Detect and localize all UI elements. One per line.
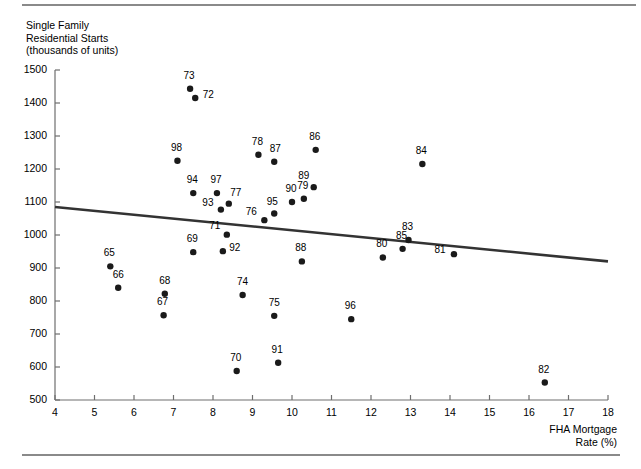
x-tick-label: 6 bbox=[122, 406, 146, 418]
data-point-label: 91 bbox=[267, 344, 287, 355]
data-point bbox=[187, 86, 193, 92]
data-point bbox=[348, 316, 354, 322]
data-point-label: 65 bbox=[99, 247, 119, 258]
data-point bbox=[399, 246, 405, 252]
data-point bbox=[234, 368, 240, 374]
y-tick-label: 700 bbox=[13, 327, 47, 339]
data-point bbox=[301, 196, 307, 202]
data-point-label: 98 bbox=[166, 142, 186, 153]
data-points-group bbox=[107, 86, 548, 386]
y-tick-label: 1300 bbox=[13, 129, 47, 141]
data-point bbox=[542, 379, 548, 385]
y-tick-label: 500 bbox=[13, 393, 47, 405]
data-point bbox=[261, 217, 267, 223]
data-point-label: 74 bbox=[233, 276, 253, 287]
x-tick-label: 11 bbox=[320, 406, 344, 418]
x-tick-label: 17 bbox=[557, 406, 581, 418]
data-point-label: 77 bbox=[226, 187, 246, 198]
data-point bbox=[419, 161, 425, 167]
data-point bbox=[271, 313, 277, 319]
figure-container: 500600700800900100011001200130014001500 … bbox=[0, 0, 641, 469]
data-point bbox=[214, 190, 220, 196]
data-point-label: 88 bbox=[291, 242, 311, 253]
x-tick-label: 4 bbox=[43, 406, 67, 418]
data-point bbox=[160, 312, 166, 318]
data-point bbox=[190, 190, 196, 196]
data-point-label: 84 bbox=[411, 145, 431, 156]
data-point bbox=[174, 158, 180, 164]
x-tick-label: 5 bbox=[83, 406, 107, 418]
y-tick-label: 1500 bbox=[13, 63, 47, 75]
x-tick-label: 13 bbox=[399, 406, 423, 418]
data-point-label: 80 bbox=[372, 238, 392, 249]
data-point bbox=[271, 210, 277, 216]
data-point-label: 94 bbox=[182, 174, 202, 185]
data-point bbox=[224, 231, 230, 237]
data-point-label: 86 bbox=[305, 131, 325, 142]
data-point-label: 71 bbox=[205, 220, 225, 231]
data-point-label: 66 bbox=[108, 269, 128, 280]
data-point-label: 72 bbox=[198, 89, 218, 100]
x-tick-label: 14 bbox=[438, 406, 462, 418]
data-point-label: 92 bbox=[225, 242, 245, 253]
data-point-label: 70 bbox=[226, 352, 246, 363]
x-tick-label: 10 bbox=[280, 406, 304, 418]
trendline-group bbox=[55, 207, 608, 261]
data-point bbox=[115, 285, 121, 291]
data-point-label: 96 bbox=[340, 300, 360, 311]
data-point bbox=[313, 147, 319, 153]
data-point-label: 90 bbox=[281, 183, 301, 194]
y-tick-label: 1100 bbox=[13, 195, 47, 207]
data-point-label: 87 bbox=[265, 143, 285, 154]
data-point-label: 73 bbox=[179, 70, 199, 81]
data-point bbox=[239, 292, 245, 298]
y-tick-label: 600 bbox=[13, 360, 47, 372]
data-point bbox=[190, 249, 196, 255]
x-tick-label: 15 bbox=[478, 406, 502, 418]
x-tick-label: 9 bbox=[241, 406, 265, 418]
data-point bbox=[255, 152, 261, 158]
data-point bbox=[451, 251, 457, 257]
y-tick-label: 900 bbox=[13, 261, 47, 273]
data-point-label: 68 bbox=[155, 275, 175, 286]
x-axis-title: FHA Mortgage Rate (%) bbox=[487, 423, 617, 448]
x-tick-label: 8 bbox=[201, 406, 225, 418]
x-tick-label: 12 bbox=[359, 406, 383, 418]
y-tick-label: 1200 bbox=[13, 162, 47, 174]
x-tick-label: 7 bbox=[162, 406, 186, 418]
data-point-label: 85 bbox=[392, 230, 412, 241]
x-tick-label: 18 bbox=[596, 406, 620, 418]
data-point-label: 82 bbox=[534, 364, 554, 375]
y-tick-label: 1400 bbox=[13, 96, 47, 108]
y-axis-title: Single Family Residential Starts (thousa… bbox=[26, 19, 118, 57]
data-point-label: 93 bbox=[198, 197, 218, 208]
data-point bbox=[299, 258, 305, 264]
data-point bbox=[218, 206, 224, 212]
y-tick-label: 1000 bbox=[13, 228, 47, 240]
plot-svg bbox=[0, 0, 641, 469]
data-point-label: 81 bbox=[430, 244, 450, 255]
scatter-plot: 500600700800900100011001200130014001500 … bbox=[0, 0, 641, 469]
data-point-label: 95 bbox=[262, 196, 282, 207]
data-point bbox=[271, 159, 277, 165]
data-point bbox=[226, 200, 232, 206]
regression-line bbox=[55, 207, 608, 261]
data-point-label: 76 bbox=[241, 206, 261, 217]
data-point-label: 89 bbox=[294, 170, 314, 181]
data-point-label: 75 bbox=[264, 297, 284, 308]
data-point bbox=[380, 254, 386, 260]
data-point-label: 97 bbox=[206, 174, 226, 185]
data-point bbox=[275, 360, 281, 366]
data-point-label: 69 bbox=[182, 233, 202, 244]
x-tick-label: 16 bbox=[517, 406, 541, 418]
data-point bbox=[289, 199, 295, 205]
data-point-label: 67 bbox=[153, 296, 173, 307]
y-tick-label: 800 bbox=[13, 294, 47, 306]
